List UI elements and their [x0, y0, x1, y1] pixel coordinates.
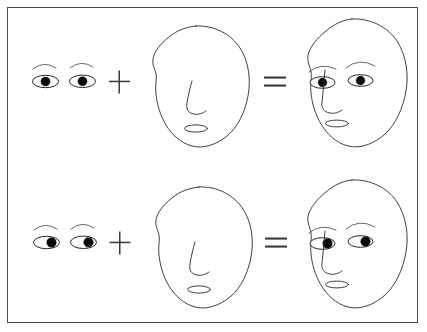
result-face-averted — [308, 180, 407, 308]
face-outline-icon — [156, 187, 253, 308]
plus-operator-icon — [110, 232, 131, 255]
figure-canvas: pair of eyes with centered pupils + blan… — [0, 0, 427, 332]
eye-icon — [348, 236, 373, 248]
row-averted-gaze — [0, 0, 427, 332]
eye-icon — [310, 238, 335, 250]
eye-icon — [71, 224, 97, 248]
equals-operator-icon — [265, 238, 287, 248]
eye-icon — [34, 225, 60, 248]
eye-pair-averted — [34, 224, 97, 248]
